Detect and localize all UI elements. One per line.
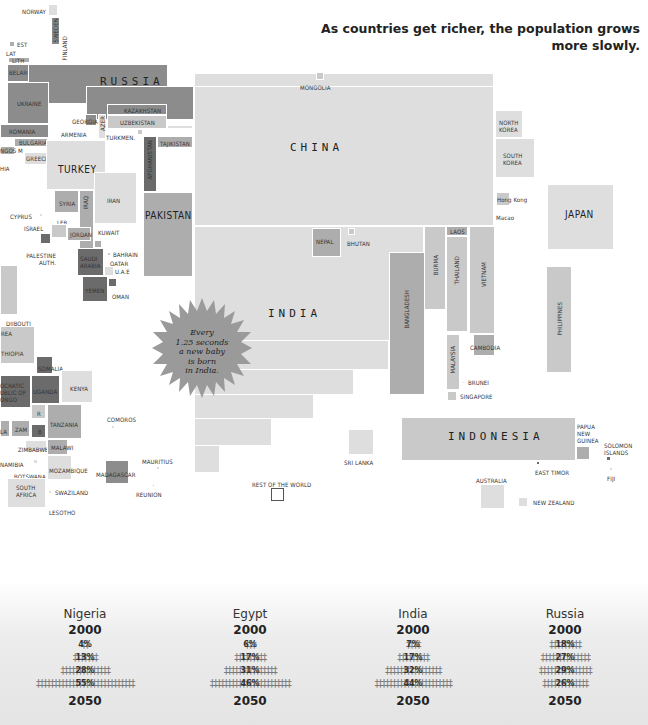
label-mozambique: MOZAMBIQUE	[49, 467, 88, 474]
country-norway	[48, 4, 58, 16]
label-malaysia: MALAYSIA	[449, 346, 456, 374]
label-la: LA	[0, 428, 7, 435]
country-mongolia	[316, 72, 324, 80]
country-australia	[480, 484, 505, 509]
label-oman: OMAN	[112, 293, 129, 300]
label-finland: FINLAND	[61, 36, 68, 60]
label-somalia: SOMALIA	[38, 365, 63, 372]
label-m: M	[18, 147, 23, 154]
country-bahrain	[107, 252, 111, 256]
label-philippines: PHILIPPINES	[556, 302, 563, 336]
pyramid-country-name: India	[333, 606, 493, 622]
label-vietnam: VIETNAM	[480, 262, 487, 287]
pyramid-percent: 17%	[403, 652, 422, 663]
label-pakistan: PAKISTAN	[145, 212, 192, 219]
label-australia: AUSTRALIA	[476, 477, 507, 484]
pyramid-year-top: 2000	[485, 622, 645, 638]
pyramid-percent: 7%	[406, 639, 420, 650]
label-hia: HIA	[0, 165, 10, 172]
callout-line: Every	[152, 328, 252, 338]
country-uae	[104, 266, 114, 276]
pyramid-percent: 26%	[555, 678, 574, 689]
label-namibia: NAMIBIA	[0, 461, 24, 468]
label-hong-kong: Hong Kong	[497, 196, 527, 203]
label-thailand: THAILAND	[453, 256, 460, 284]
label-yemen: YEMEN	[85, 287, 104, 294]
label-madagascar: MADAGASCAR	[96, 471, 136, 478]
label-brunei: BRUNEI	[468, 379, 489, 386]
label-north-korea: NORTH KOREA	[499, 119, 521, 133]
pyramid-year-top: 2000	[5, 622, 165, 638]
country-india-south4	[194, 418, 272, 446]
pyramid-percent: 13%	[75, 652, 94, 663]
country-palestine	[40, 233, 51, 244]
pyramid-country-name: Nigeria	[5, 606, 165, 622]
pyramid-percent: 27%	[555, 652, 574, 663]
label-drc: OCRATIC UBLIC OF ONGO	[0, 382, 30, 403]
pyramid-year-top: 2000	[333, 622, 493, 638]
label-kazakhstan: KAZAKHSTAN	[124, 107, 161, 114]
country-sri-lanka	[348, 429, 374, 455]
label-est: EST	[17, 41, 27, 48]
pyramid-country-name: Russia	[485, 606, 645, 622]
pyramid-percent: 46%	[240, 678, 259, 689]
label-rest-of-world: REST OF THE WORLD	[252, 481, 311, 488]
label-turkey: TURKEY	[58, 166, 96, 173]
label-israel: ISRAEL	[24, 225, 43, 232]
label-cambodia: CAMBODIA	[470, 344, 500, 351]
label-uzbekistan: UZBEKISTAN	[120, 119, 155, 126]
pyramid-row: ‡‡‡‡‡‡‡‡‡‡‡‡‡‡‡‡‡‡‡‡‡‡‡46%	[170, 677, 330, 690]
label-ethiopia: THIOPIA	[1, 350, 23, 357]
label-lesotho: LESOTHO	[49, 509, 75, 516]
pyramid-nigeria: Nigeria2000‡‡4%‡‡‡‡‡‡‡13%‡‡‡‡‡‡‡‡‡‡‡‡‡‡2…	[5, 580, 165, 708]
label-solomon: SOLOMON ISLANDS	[604, 442, 634, 456]
callout-line: a new baby	[152, 347, 252, 357]
subtitle-line-2: more slowly.	[280, 37, 640, 54]
country-png	[576, 446, 590, 460]
country-swaziland	[48, 490, 52, 494]
pyramid-percent: 17%	[240, 652, 259, 663]
pyramid-year-bottom: 2050	[170, 694, 330, 708]
pyramid-year-bottom: 2050	[5, 694, 165, 708]
pyramid-row: ‡‡‡‡‡‡‡‡‡‡‡‡‡26%	[485, 677, 645, 690]
pyramid-row: ‡‡‡‡‡‡‡‡‡17%	[170, 651, 330, 664]
label-indonesia: INDONESIA	[448, 433, 544, 440]
callout-line: is born	[152, 357, 252, 367]
label-japan: JAPAN	[565, 211, 594, 218]
label-palestine: PALESTINE AUTH.	[22, 252, 56, 266]
pyramid-row: ‡‡‡‡‡‡‡13%	[5, 651, 165, 664]
label-armenia: ARMENIA	[61, 131, 87, 138]
country-kyrgyzstan	[167, 125, 193, 129]
label-south-africa: SOUTH AFRICA	[16, 484, 42, 498]
label-png: PAPUA NEW GUINEA	[577, 423, 597, 444]
label-georgia: GEORGIA	[72, 118, 98, 125]
label-azer: AZER	[99, 116, 106, 131]
pyramid-row: ‡‡‡‡7%	[333, 638, 493, 651]
country-oman	[108, 278, 117, 287]
subtitle-line-1: As countries get richer, the population …	[280, 20, 640, 37]
label-singapore: SINGAPORE	[460, 393, 493, 400]
label-saudi: SAUDI ARABIA	[80, 255, 102, 269]
label-burundi: B	[38, 428, 42, 435]
pyramid-year-top: 2000	[170, 622, 330, 638]
country-india-south5	[194, 445, 220, 473]
country-cyprus	[39, 213, 43, 217]
pyramid-percent: 44%	[403, 678, 422, 689]
label-jordan: JORDAN	[70, 231, 92, 238]
label-zimbabwe: ZIMBABWE	[18, 446, 48, 453]
country-israel	[51, 224, 67, 238]
pyramid-row: ‡‡‡‡‡‡‡‡‡‡‡‡‡‡28%	[5, 664, 165, 677]
label-lith: LITH	[12, 57, 24, 64]
label-comoros: COMOROS	[107, 416, 136, 423]
country-namibia	[33, 459, 38, 464]
label-turkmen: TURKMEN.	[106, 134, 135, 141]
label-reunion: REUNION	[136, 491, 162, 498]
country-bhutan	[348, 228, 355, 235]
cartogram-map: NORWAY SWEDEN FINLAND EST LAT LITH BELAR…	[0, 0, 648, 560]
label-sweden: SWEDEN	[52, 18, 59, 42]
pyramid-russia: Russia2000‡‡‡‡‡‡‡‡‡18%‡‡‡‡‡‡‡‡‡‡‡‡‡‡27%‡…	[485, 580, 645, 708]
label-rwanda: R	[37, 410, 41, 417]
label-bulgaria: BULGARIA	[19, 139, 47, 146]
pyramid-year-bottom: 2050	[333, 694, 493, 708]
label-new-zealand: NEW ZEALAND	[533, 499, 574, 506]
